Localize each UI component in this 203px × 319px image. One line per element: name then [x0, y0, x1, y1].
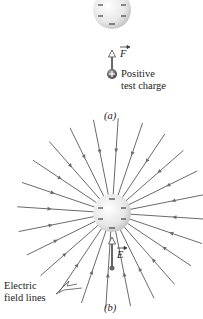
caption-b: (b): [104, 302, 116, 313]
field-lines-label-line2: field lines: [4, 292, 46, 304]
negative-sphere-a: [93, 0, 131, 29]
force-label: F: [120, 48, 126, 60]
field-lines-label-line1: Electric: [4, 280, 37, 292]
field-lines-pointer: [56, 281, 82, 294]
force-arrow: [109, 50, 116, 71]
positive-test-charge: [107, 69, 117, 79]
test-charge-label-line1: Positive: [121, 68, 155, 80]
caption-a: (a): [104, 110, 116, 121]
test-charge-label-line2: test charge: [121, 80, 166, 92]
electric-field-diagram: [0, 0, 203, 319]
field-vector-label: E: [117, 249, 123, 261]
negative-sphere-b: [93, 194, 131, 232]
